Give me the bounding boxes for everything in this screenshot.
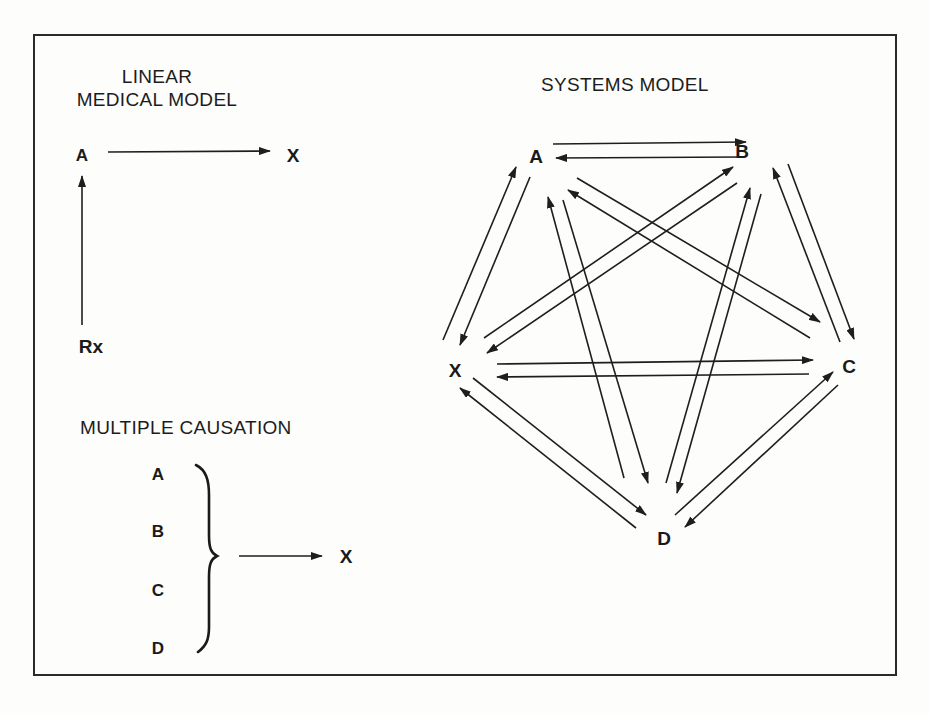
effect-x: X [340,547,353,566]
arrow-x-to-d [473,378,646,515]
arrow-d-to-b [666,188,750,483]
arrow-c-to-a [568,190,810,338]
system-node-c: C [842,357,856,376]
cause-b: B [152,523,164,540]
cause-d: D [152,640,164,657]
arrow-x-to-c [497,360,813,364]
multiple-causation-title: MULTIPLE CAUSATION [80,416,292,439]
system-node-a: A [529,147,543,166]
linear-model-title-line2: MEDICAL MODEL [62,88,252,111]
arrow-a-to-x [460,177,530,345]
arrow-a-to-x [108,151,270,152]
systems-model-arrows [443,142,854,528]
arrow-d-to-c [675,372,833,515]
linear-model-arrows [82,151,270,325]
linear-node-rx: Rx [79,337,103,356]
system-node-x: X [449,361,462,380]
cause-a: A [152,466,164,483]
arrow-c-to-d [685,385,838,527]
linear-node-x: X [287,146,300,165]
systems-model-title: SYSTEMS MODEL [541,73,709,96]
arrow-b-to-c [788,164,854,339]
arrow-a-to-b [553,142,746,144]
system-node-d: D [657,529,671,548]
cause-c: C [152,582,164,599]
arrow-d-to-a [548,197,624,478]
arrow-b-to-a [556,157,742,158]
curly-brace [196,465,217,652]
arrow-b-to-x [487,183,737,353]
linear-model-title: LINEAR MEDICAL MODEL [62,65,252,111]
linear-model-title-line1: LINEAR [62,65,252,88]
multiple-causation-graphics [196,465,322,652]
arrow-a-to-d [563,200,648,483]
arrow-c-to-b [773,168,840,342]
linear-node-a: A [76,147,88,164]
system-node-b: B [735,142,749,161]
arrow-x-to-b [484,167,733,338]
arrow-c-to-x [497,374,809,377]
arrow-d-to-x [460,388,636,528]
arrow-x-to-a [443,167,516,340]
